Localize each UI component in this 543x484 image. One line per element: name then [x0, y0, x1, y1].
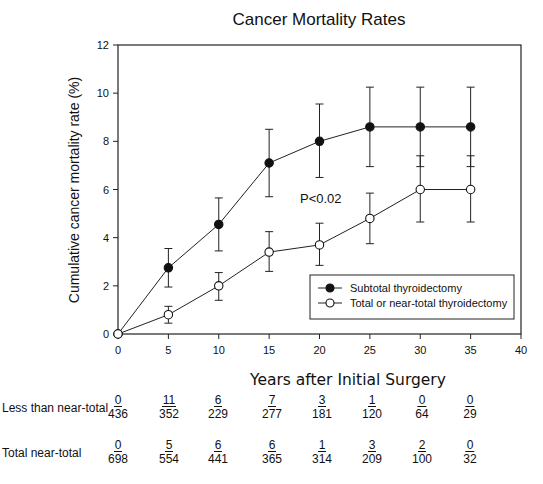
events-count: 1 [368, 394, 377, 407]
filled-marker [215, 220, 223, 228]
y-tick-label: 10 [97, 87, 109, 99]
x-tick-label: 20 [313, 344, 325, 356]
events-count: 0 [114, 439, 123, 452]
at-risk-count: 365 [262, 452, 282, 466]
y-tick-label: 12 [97, 39, 109, 51]
risk-row-label: Total near-total [2, 446, 81, 460]
risk-cell: 3181 [312, 393, 332, 421]
at-risk-count: 352 [159, 407, 179, 421]
events-count: 1 [318, 439, 327, 452]
x-tick-label: 5 [165, 344, 171, 356]
at-risk-count: 698 [108, 452, 128, 466]
events-count: 2 [418, 439, 427, 452]
at-risk-count: 100 [412, 452, 432, 466]
risk-cell: 029 [463, 393, 476, 421]
risk-cell: 1120 [362, 393, 382, 421]
y-tick-label: 2 [103, 280, 109, 292]
at-risk-count: 209 [362, 452, 382, 466]
at-risk-count: 314 [312, 452, 332, 466]
events-count: 0 [466, 394, 475, 407]
x-tick-label: 15 [263, 344, 275, 356]
y-tick-label: 0 [103, 328, 109, 340]
filled-marker [466, 123, 474, 131]
legend-label: Subtotal thyroidectomy [350, 282, 462, 294]
risk-cell: 0436 [108, 393, 128, 421]
events-count: 0 [466, 439, 475, 452]
filled-marker [164, 264, 172, 272]
events-count: 0 [114, 394, 123, 407]
events-count: 11 [162, 394, 176, 407]
y-tick-label: 8 [103, 135, 109, 147]
filled-marker [366, 123, 374, 131]
open-marker [114, 330, 122, 338]
at-risk-count: 64 [415, 407, 428, 421]
p-value-annotation: P<0.02 [300, 191, 342, 206]
events-count: 6 [214, 439, 223, 452]
events-count: 6 [214, 394, 223, 407]
risk-cell: 3209 [362, 438, 382, 466]
at-risk-count: 441 [208, 452, 228, 466]
x-tick-label: 0 [115, 344, 121, 356]
events-count: 6 [268, 439, 277, 452]
risk-cell: 11352 [159, 393, 179, 421]
risk-cell: 6229 [208, 393, 228, 421]
events-count: 5 [165, 439, 174, 452]
open-marker [164, 311, 172, 319]
open-marker [366, 214, 374, 222]
at-risk-count: 554 [159, 452, 179, 466]
filled-marker [315, 137, 323, 145]
events-count: 7 [268, 394, 277, 407]
y-tick-label: 4 [103, 232, 109, 244]
open-marker [265, 248, 273, 256]
open-marker [315, 241, 323, 249]
risk-cell: 2100 [412, 438, 432, 466]
risk-cell: 6365 [262, 438, 282, 466]
at-risk-count: 120 [362, 407, 382, 421]
x-tick-label: 35 [465, 344, 477, 356]
at-risk-count: 181 [312, 407, 332, 421]
legend-marker [326, 284, 334, 292]
at-risk-count: 277 [262, 407, 282, 421]
events-count: 3 [368, 439, 377, 452]
at-risk-count: 32 [463, 452, 476, 466]
x-tick-label: 40 [515, 344, 527, 356]
at-risk-count: 229 [208, 407, 228, 421]
open-marker [215, 282, 223, 290]
risk-cell: 064 [415, 393, 428, 421]
legend-label: Total or near-total thyroidectomy [350, 297, 508, 309]
x-tick-label: 30 [414, 344, 426, 356]
events-count: 0 [418, 394, 427, 407]
risk-cell: 1314 [312, 438, 332, 466]
risk-cell: 032 [463, 438, 476, 466]
x-tick-label: 25 [364, 344, 376, 356]
y-tick-label: 6 [103, 184, 109, 196]
open-marker [466, 185, 474, 193]
at-risk-count: 29 [463, 407, 476, 421]
filled-marker [416, 123, 424, 131]
risk-cell: 5554 [159, 438, 179, 466]
risk-row-label: Less than near-total [2, 401, 108, 415]
filled-marker [265, 159, 273, 167]
risk-cell: 6441 [208, 438, 228, 466]
events-count: 3 [318, 394, 327, 407]
risk-cell: 0698 [108, 438, 128, 466]
at-risk-count: 436 [108, 407, 128, 421]
open-marker [416, 185, 424, 193]
risk-cell: 7277 [262, 393, 282, 421]
x-tick-label: 10 [213, 344, 225, 356]
legend-marker [326, 299, 334, 307]
